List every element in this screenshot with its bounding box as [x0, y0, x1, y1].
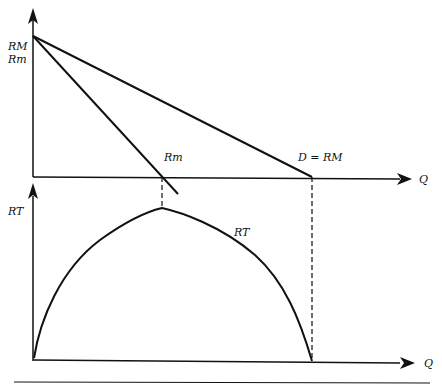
marginal-revenue-label: Rm — [163, 151, 183, 164]
upper-x-label: Q — [419, 173, 428, 186]
demand-label: D = RM — [297, 151, 343, 164]
lower-y-label: RT — [7, 205, 25, 218]
lower-x-axis — [33, 360, 400, 363]
lower-x-arrow-icon — [400, 357, 415, 369]
marginal-revenue-line — [33, 36, 178, 194]
total-revenue-label: RT — [233, 226, 251, 239]
upper-y-label-rm: RM — [7, 40, 28, 53]
bottom-divider — [14, 382, 430, 383]
revenue-diagram: RM Rm Rm D = RM Q RT RT Q — [0, 0, 442, 386]
total-revenue-curve — [34, 208, 312, 361]
upper-y-label-rmarg: Rm — [7, 53, 27, 66]
upper-x-axis — [33, 177, 400, 179]
lower-x-label: Q — [424, 357, 433, 370]
